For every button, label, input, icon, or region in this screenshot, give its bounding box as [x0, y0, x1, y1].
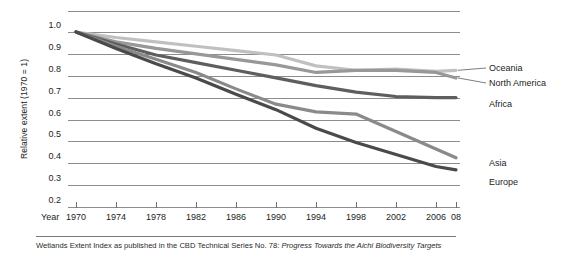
x-tick-label-1974: 1974: [106, 212, 126, 222]
y-tick-label-0-5: 0.5: [31, 130, 61, 139]
x-tick-mark-1978: [156, 202, 157, 208]
legend-label-europe: Europe: [489, 177, 518, 187]
x-tick-mark-1986: [236, 202, 237, 208]
x-axis-title: Year: [41, 212, 59, 222]
series-line-asia: [76, 32, 456, 158]
x-tick-mark-1994: [316, 202, 317, 208]
legend-label-north-america: North America: [489, 78, 546, 88]
legend-label-africa: Africa: [489, 99, 512, 109]
x-tick-label-2006: 2006: [426, 212, 446, 222]
series-layer: [68, 11, 460, 207]
y-tick-label-0-8: 0.8: [31, 65, 61, 74]
figure-root: Relative extent (1970 = 1) 1.00.90.80.70…: [0, 0, 580, 255]
x-tick-mark-1970: [76, 202, 77, 208]
legend-label-oceania: Oceania: [489, 63, 523, 73]
x-tick-label-1998: 1998: [346, 212, 366, 222]
x-tick-mark-08: [456, 202, 457, 208]
caption-plain-text: Wetlands Extent Index as published in th…: [36, 241, 279, 250]
caption-italic-text: Progress Towards the Aichi Biodiversity …: [281, 241, 441, 250]
x-tick-label-2002: 2002: [386, 212, 406, 222]
x-tick-mark-1974: [116, 202, 117, 208]
leader-line-oceania: [458, 68, 486, 70]
y-tick-label-0-9: 0.9: [31, 43, 61, 52]
y-tick-label-0-7: 0.7: [31, 87, 61, 96]
y-tick-label-0-6: 0.6: [31, 109, 61, 118]
y-tick-label-0-2: 0.2: [31, 196, 61, 205]
x-tick-mark-2006: [436, 202, 437, 208]
x-tick-label-1994: 1994: [306, 212, 326, 222]
x-tick-mark-1990: [276, 202, 277, 208]
figure-caption: Wetlands Extent Index as published in th…: [36, 241, 441, 251]
y-tick-label-0-3: 0.3: [31, 174, 61, 183]
x-tick-label-08: 08: [451, 212, 461, 222]
x-tick-mark-1982: [196, 202, 197, 208]
x-tick-mark-1998: [356, 202, 357, 208]
y-axis-title: Relative extent (1970 = 1): [19, 9, 29, 209]
x-tick-label-1982: 1982: [186, 212, 206, 222]
x-tick-label-1978: 1978: [146, 212, 166, 222]
x-tick-label-1970: 1970: [66, 212, 86, 222]
legend-label-asia: Asia: [489, 158, 507, 168]
y-tick-label-0-4: 0.4: [31, 152, 61, 161]
x-axis-line: [68, 207, 460, 208]
y-tick-label-1-0: 1.0: [31, 21, 61, 30]
caption-rule: [36, 236, 456, 237]
x-tick-label-1986: 1986: [226, 212, 246, 222]
leader-line-north-america: [458, 78, 486, 83]
x-tick-label-1990: 1990: [266, 212, 286, 222]
x-tick-mark-2002: [396, 202, 397, 208]
